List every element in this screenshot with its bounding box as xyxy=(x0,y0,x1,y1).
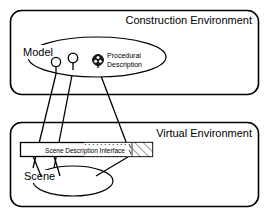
procedural-description-label-line1: Procedural xyxy=(107,52,141,59)
construction-environment-title: Construction Environment xyxy=(125,14,252,26)
procedural-description-label-line2: Description xyxy=(107,61,142,69)
node-1-circle[interactable] xyxy=(51,57,60,66)
diagram-canvas: Construction Environment Model Procedura… xyxy=(0,0,269,218)
diagram-root: Construction Environment Model Procedura… xyxy=(0,0,269,218)
scene-description-interface[interactable]: Scene Description Interface xyxy=(21,143,153,157)
node-2-circle[interactable] xyxy=(68,53,78,63)
connector-bar-to-scene-right xyxy=(96,157,128,176)
scene-description-interface-label: Scene Description Interface xyxy=(45,147,125,155)
model-label: Model xyxy=(23,46,53,58)
virtual-environment-title: Virtual Environment xyxy=(156,127,252,139)
